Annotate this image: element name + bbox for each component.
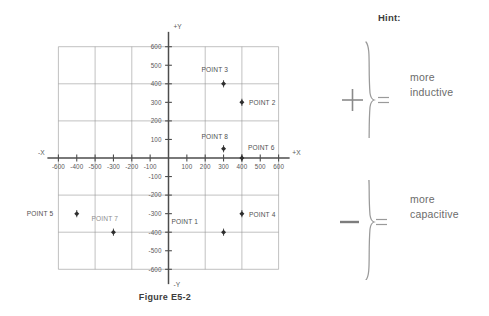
y-tick-label: -600 [148,266,161,273]
y-tick-label: -400 [148,229,161,236]
data-point-marker [111,230,116,235]
y-tick-label: 300 [151,99,162,106]
data-point [221,229,226,236]
x-tick-label: 500 [255,163,266,170]
data-point [239,99,244,106]
hint-row-inductive: more inductive [330,38,489,138]
hint-line1-capacitive: more [410,193,435,205]
x-tick-label: -100 [144,163,157,170]
figure-container: -600-400-500-300-200-1001002003004005006… [0,0,330,316]
data-point [221,80,226,87]
data-point-label: POINT 8 [202,133,229,140]
data-point [111,229,116,236]
data-point-label: POINT 2 [249,99,276,106]
x-tick-label: -300 [107,163,120,170]
hint-text-capacitive: more capacitive [410,192,489,222]
axis-label-x-positive: +X [292,149,301,156]
data-point-label: POINT 6 [248,144,275,151]
figure-page: -600-400-500-300-200-1001002003004005006… [0,0,489,316]
data-point-label: POINT 1 [172,218,199,225]
hint-title: Hint: [378,12,401,23]
plot-svg: -600-400-500-300-200-1001002003004005006… [0,0,330,300]
x-tick-label: -600 [52,163,65,170]
data-point-marker [239,156,244,161]
data-point [221,145,226,152]
hint-glyphs-inductive [332,38,408,138]
hint-brace-plus-svg [332,38,408,138]
hint-row-capacitive: more capacitive [330,180,489,280]
x-tick-label: 300 [218,163,229,170]
hint-panel: Hint: [330,0,489,316]
axis-label-x-negative: -X [38,149,45,156]
brace-icon [366,180,374,280]
equals-sign-icon [376,220,387,225]
hint-line2-inductive: inductive [410,85,489,100]
axes [47,32,289,284]
data-point [239,210,244,217]
y-tick-label: 500 [151,62,162,69]
data-point-label: POINT 7 [91,215,118,222]
hint-line2-capacitive: capacitive [410,207,489,222]
equals-sign-icon [378,98,389,103]
y-tick-label: -500 [148,247,161,254]
hint-text-inductive: more inductive [410,70,489,100]
brace-icon [366,42,374,138]
data-point-marker [221,146,226,151]
y-tick-label: 400 [151,80,162,87]
data-point-marker [74,211,79,216]
x-tick-label: -500 [89,163,102,170]
data-point-marker [221,81,226,86]
x-tick-label: 600 [273,163,284,170]
data-point-label: POINT 3 [202,66,229,73]
y-tick-label: 600 [151,43,162,50]
x-tick-label: 100 [181,163,192,170]
figure-caption: Figure E5-2 [0,292,330,302]
axis-label-y-negative: -Y [174,281,181,288]
x-tick-label: 400 [236,163,247,170]
x-tick-label: -200 [125,163,138,170]
y-tick-label: -100 [148,173,161,180]
data-point-label: POINT 5 [27,210,54,217]
axis-label-y-positive: +Y [174,23,183,30]
y-tick-label: 200 [151,117,162,124]
plus-sign-icon [342,89,363,111]
y-tick-label: -200 [148,191,161,198]
y-tick-label: -300 [148,210,161,217]
axis-end-labels: +Y-Y+X-X [38,23,301,288]
data-point-marker [221,230,226,235]
hint-line1-inductive: more [410,71,435,83]
data-point-marker [239,100,244,105]
x-tick-label: 200 [200,163,211,170]
data-point [74,210,79,217]
data-point-marker [239,211,244,216]
data-point [239,154,244,161]
cartesian-plot: -600-400-500-300-200-1001002003004005006… [0,0,330,300]
hint-brace-minus-svg [332,180,408,280]
data-point-label: POINT 4 [249,211,276,218]
y-tick-label: 100 [151,136,162,143]
hint-glyphs-capacitive [332,180,408,280]
x-tick-label: -400 [70,163,83,170]
